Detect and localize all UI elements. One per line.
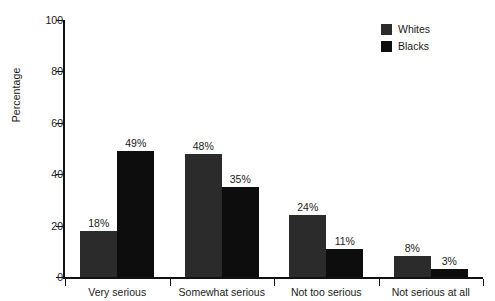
legend-label: Blacks [398,41,429,52]
x-axis-tick-mark [379,279,380,286]
bar-value-label: 49% [125,137,146,149]
bar-whites-2 [185,154,222,277]
bar-value-label: 8% [405,242,420,254]
bar-value-label: 35% [230,173,251,185]
x-axis-category-label: Somewhat serious [179,286,265,298]
x-axis-line [63,277,483,279]
x-axis-tick-mark [274,279,275,286]
y-axis-tick-label: 60 [35,117,63,129]
legend-item: Whites [381,22,430,37]
x-axis-tick-mark [483,279,484,286]
y-axis-tick-label: 0 [35,271,63,283]
bar-value-label: 18% [88,217,109,229]
bar-whites-1 [80,231,117,277]
x-axis-category-label: Not serious at all [392,286,470,298]
bar-blacks-3 [326,249,363,277]
bar-whites-3 [289,215,326,277]
y-axis-tick-label: 80 [35,65,63,77]
y-axis-title: Percentage [10,50,22,140]
y-axis-tick-label: 100 [35,14,63,26]
legend-swatch-icon [381,41,392,52]
legend-swatch-icon [381,24,392,35]
bar-value-label: 24% [297,201,318,213]
x-axis-category-label: Not too serious [291,286,362,298]
x-axis-tick-mark [170,279,171,286]
y-axis-tick-label: 20 [35,220,63,232]
bar-blacks-4 [431,269,468,277]
bar-value-label: 3% [442,255,457,267]
y-axis-tick-label: 40 [35,168,63,180]
bar-blacks-1 [117,151,154,277]
bar-chart: Percentage 020406080100 Very seriousSome… [0,0,495,301]
bar-blacks-2 [222,187,259,277]
bar-whites-4 [394,256,431,277]
x-axis-category-label: Very serious [88,286,146,298]
legend-item: Blacks [381,39,430,54]
legend: WhitesBlacks [381,22,430,56]
x-axis-tick-mark [65,279,66,286]
legend-label: Whites [398,24,430,35]
bar-value-label: 11% [335,235,355,247]
bar-value-label: 48% [193,140,214,152]
